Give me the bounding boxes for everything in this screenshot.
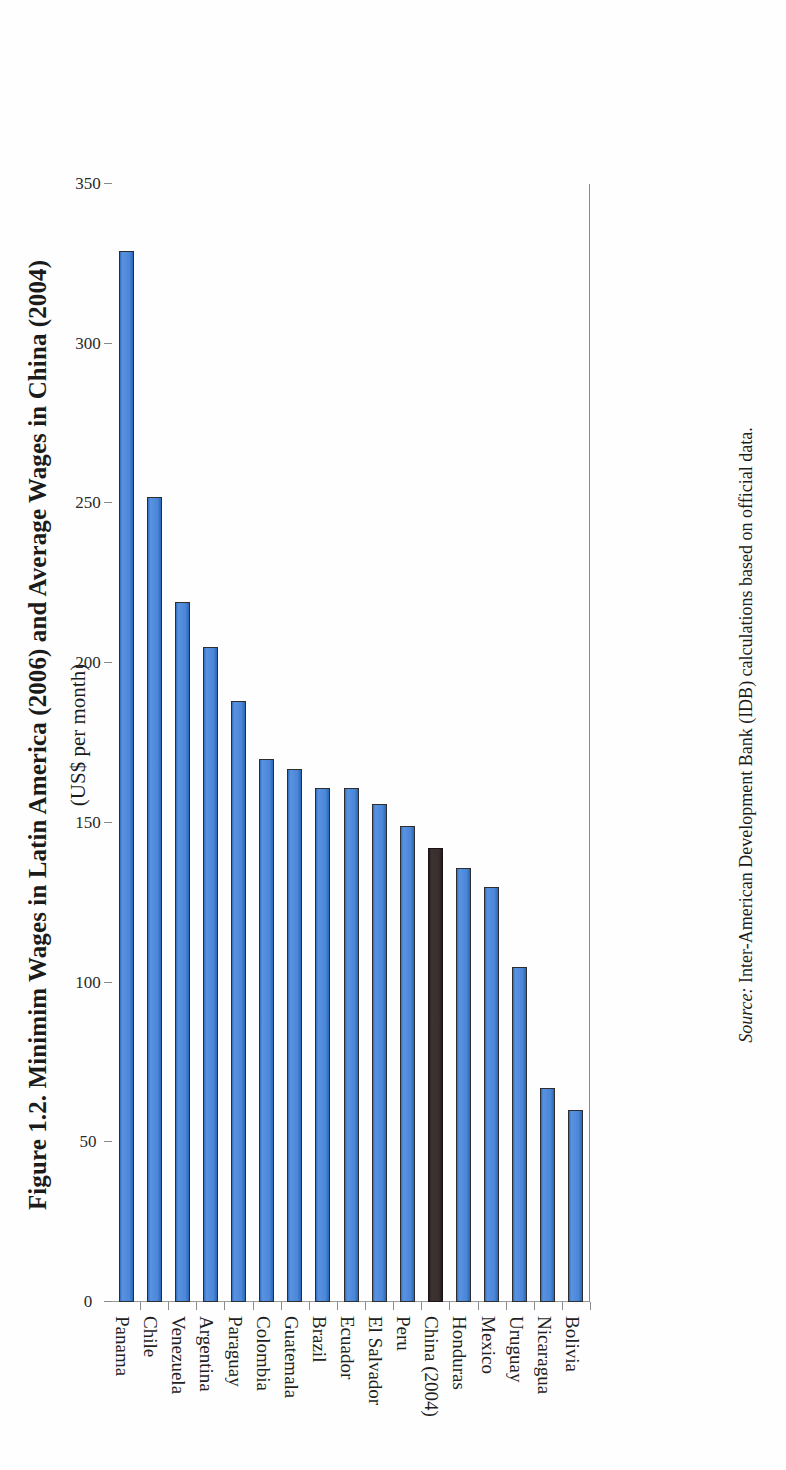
category-label: Chile — [139, 1316, 161, 1357]
bar-chart-plot-area: 050100150200250300350 — [112, 184, 590, 1302]
category-axis-tick — [309, 1302, 310, 1310]
category-label: Peru — [392, 1316, 414, 1351]
bar[interactable] — [119, 251, 134, 1302]
bar[interactable] — [568, 1110, 583, 1302]
bar[interactable] — [456, 868, 471, 1302]
category-axis-tick — [562, 1302, 563, 1310]
category-axis-baseline — [589, 184, 590, 1302]
category-axis-tick — [337, 1302, 338, 1310]
source-text: Inter-American Development Bank (IDB) ca… — [736, 427, 756, 987]
figure-subtitle: (US$ per month) — [66, 0, 91, 1470]
category-label: China (2004) — [420, 1316, 442, 1417]
category-label: Honduras — [448, 1316, 470, 1390]
bar[interactable] — [540, 1088, 555, 1302]
value-axis-tick-label: 200 — [68, 653, 108, 673]
bar[interactable] — [315, 788, 330, 1302]
bar[interactable] — [287, 769, 302, 1302]
value-axis-tick-label: 250 — [68, 493, 108, 513]
category-axis-tick — [196, 1302, 197, 1310]
category-label: Uruguay — [505, 1316, 527, 1382]
category-label: Ecuador — [336, 1316, 358, 1379]
category-label: Brazil — [308, 1316, 330, 1362]
category-axis-tick — [168, 1302, 169, 1310]
figure-page: Figure 1.2. Minimim Wages in Latin Ameri… — [0, 0, 786, 1470]
category-label: Guatemala — [280, 1316, 302, 1398]
bar[interactable] — [259, 759, 274, 1302]
bar[interactable] — [428, 848, 443, 1302]
category-axis-tick — [449, 1302, 450, 1310]
category-axis-tick — [281, 1302, 282, 1310]
category-label: Colombia — [252, 1316, 274, 1391]
value-axis-tick-label: 50 — [68, 1132, 108, 1152]
category-axis-tick — [224, 1302, 225, 1310]
category-axis-tick — [478, 1302, 479, 1310]
category-axis-tick — [506, 1302, 507, 1310]
value-axis-tick-label: 0 — [68, 1292, 108, 1312]
category-axis-tick — [365, 1302, 366, 1310]
bar[interactable] — [484, 887, 499, 1302]
bar[interactable] — [512, 967, 527, 1302]
figure-title: Figure 1.2. Minimim Wages in Latin Ameri… — [24, 0, 52, 1470]
category-label: Venezuela — [167, 1316, 189, 1394]
value-axis-tick-label: 100 — [68, 973, 108, 993]
value-axis-tick-label: 300 — [68, 334, 108, 354]
category-axis-tick — [590, 1302, 591, 1310]
category-axis-tick — [253, 1302, 254, 1310]
category-label: El Salvador — [364, 1316, 386, 1405]
category-label: Nicaragua — [533, 1316, 555, 1394]
bar[interactable] — [400, 826, 415, 1302]
category-axis-tick — [140, 1302, 141, 1310]
bar[interactable] — [231, 701, 246, 1302]
value-axis-tick-label: 350 — [68, 174, 108, 194]
category-label: Argentina — [195, 1316, 217, 1392]
category-axis-tick — [393, 1302, 394, 1310]
bar[interactable] — [147, 497, 162, 1302]
bar[interactable] — [344, 788, 359, 1302]
category-label: Bolivia — [561, 1316, 583, 1372]
bar[interactable] — [175, 602, 190, 1302]
category-label: Panama — [111, 1316, 133, 1376]
category-label: Mexico — [477, 1316, 499, 1374]
category-axis-tick — [534, 1302, 535, 1310]
category-label: Paraguay — [224, 1316, 246, 1387]
bar[interactable] — [372, 804, 387, 1302]
figure-source: Source: Inter-American Development Bank … — [736, 0, 757, 1470]
category-axis-tick — [421, 1302, 422, 1310]
bar[interactable] — [203, 647, 218, 1302]
value-axis-tick-label: 150 — [68, 813, 108, 833]
rotated-figure-stage: Figure 1.2. Minimim Wages in Latin Ameri… — [0, 0, 786, 1470]
source-label: Source: — [736, 987, 756, 1042]
